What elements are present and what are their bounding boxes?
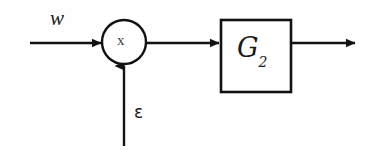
block-diagram-canvas: w x ε G2 [0,0,377,160]
gain-block-label-main: G [237,32,259,63]
multiplier-symbol-label: x [117,33,125,48]
gain-block-label-subscript: 2 [259,54,268,70]
gain-block-label: G2 [237,34,268,65]
signal-label-epsilon: ε [134,104,143,121]
signal-label-w: w [50,8,64,29]
